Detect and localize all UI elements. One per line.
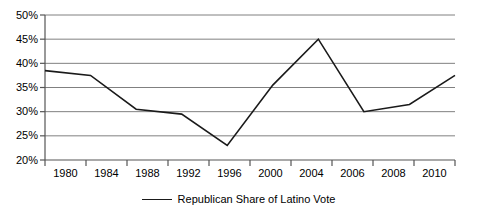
x-tick-label-1980: 1980 <box>44 167 87 179</box>
y-tick-label-25: 25% <box>0 129 38 141</box>
x-tick-label-1984: 1984 <box>85 167 128 179</box>
x-tick-label-1996: 1996 <box>208 167 251 179</box>
y-tick-label-35: 35% <box>0 81 38 93</box>
x-tick-label-2008: 2008 <box>372 167 415 179</box>
x-tick-label-1988: 1988 <box>126 167 169 179</box>
x-tick-label-1992: 1992 <box>167 167 210 179</box>
plot-area <box>0 0 477 220</box>
x-tick-label-2000: 2000 <box>249 167 292 179</box>
legend-line-swatch <box>142 199 172 200</box>
y-tick-label-30: 30% <box>0 105 38 117</box>
data-series-line <box>45 39 455 145</box>
legend-label: Republican Share of Latino Vote <box>178 193 336 205</box>
y-tick-label-50: 50% <box>0 9 38 21</box>
chart-legend: Republican Share of Latino Vote <box>0 193 477 205</box>
line-chart: 50% 45% 40% 35% 30% 25% 20% 1980 1984 19… <box>0 0 477 220</box>
y-tick-label-40: 40% <box>0 57 38 69</box>
x-tick-label-2004: 2004 <box>290 167 333 179</box>
x-axis-ticks <box>45 160 455 166</box>
y-tick-label-20: 20% <box>0 154 38 166</box>
y-tick-label-45: 45% <box>0 33 38 45</box>
y-axis-ticks <box>40 15 45 160</box>
gridlines <box>45 15 455 136</box>
x-tick-label-2010: 2010 <box>413 167 456 179</box>
x-tick-label-2006: 2006 <box>331 167 374 179</box>
